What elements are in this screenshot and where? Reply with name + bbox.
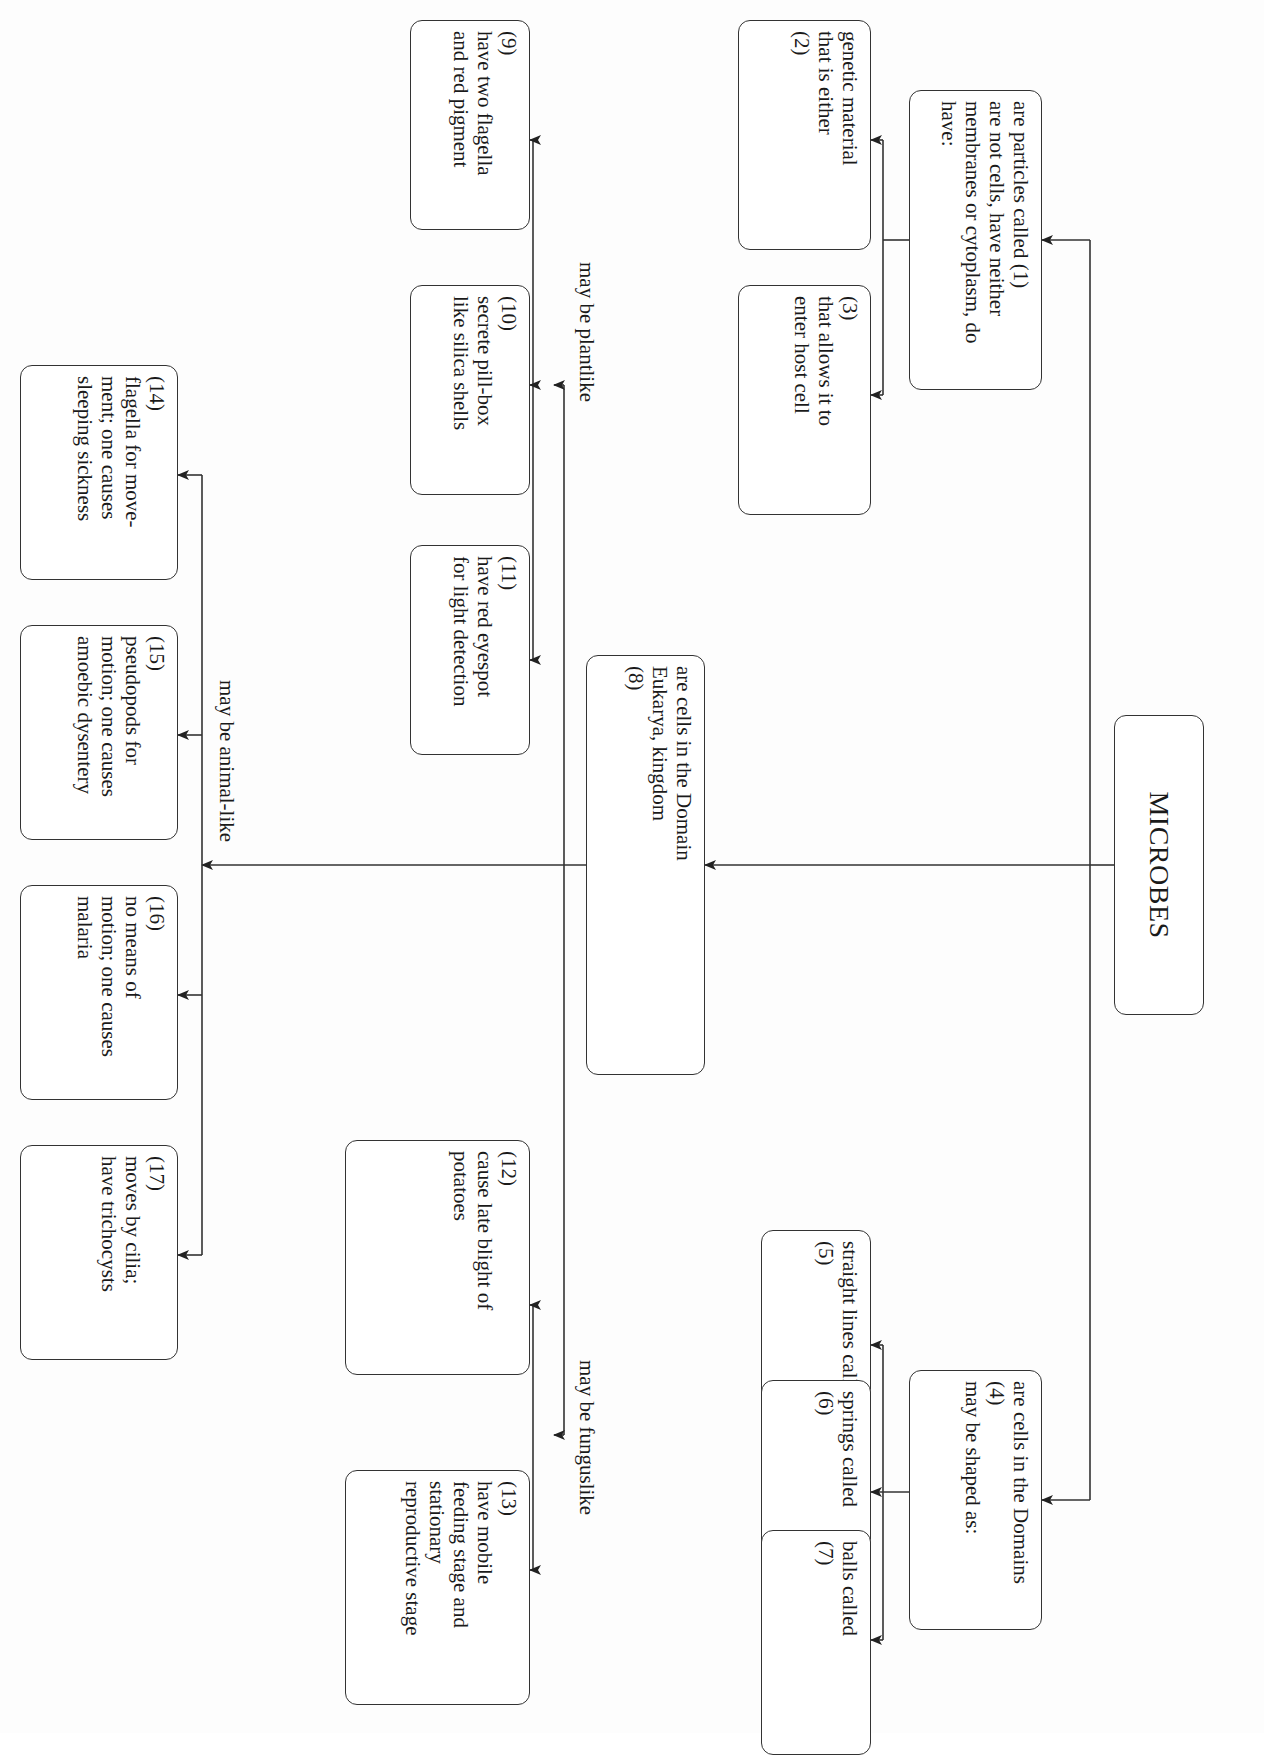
node-15-pseudopods-amoebic-dysentery: (15) pseudopods for motion; one causes a… [20, 625, 178, 840]
eukarya-node: are cells in the Domain Eukarya, kingdom… [586, 655, 705, 1075]
microbes-title-node: MICROBES [1114, 715, 1204, 1015]
node-10-silica-shells: (10) secrete pill-box like silica shells [410, 285, 530, 495]
node-14-flagella-sleeping-sickness: (14) flagella for move- ment; one causes… [20, 365, 178, 580]
branch-label-plantlike: may be plantlike [575, 262, 599, 402]
node-7-balls: balls called (7) [761, 1530, 871, 1755]
node-11-red-eyespot: (11) have red eyespot for light detectio… [410, 545, 530, 755]
node-17-cilia-trichocysts: (17) moves by cilia; have trichocysts [20, 1145, 178, 1360]
node-12-late-blight: (12) cause late blight of potatoes [345, 1140, 530, 1375]
node-16-malaria: (16) no means of motion; one causes mala… [20, 885, 178, 1100]
branch-label-animallike: may be animal-like [215, 680, 239, 842]
node-3-host-entry: (3) that allows it to enter host cell [738, 285, 871, 515]
branch-label-funguslike: may be funguslike [575, 1360, 599, 1515]
viruses-node: are particles called (1) are not cells, … [909, 90, 1042, 390]
node-2-genetic-material: genetic material that is either (2) [738, 20, 871, 250]
domains-node: are cells in the Domains (4) may be shap… [909, 1370, 1042, 1630]
node-9-two-flagella: (9) have two flagella and red pigment [410, 20, 530, 230]
node-13-mobile-feeding-stage: (13) have mobile feeding stage and stati… [345, 1470, 530, 1705]
